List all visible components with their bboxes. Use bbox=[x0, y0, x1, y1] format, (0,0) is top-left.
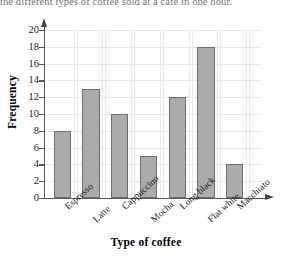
gridline-vertical bbox=[246, 30, 247, 198]
figure-caption: the different types of coffee sold at a … bbox=[0, 0, 292, 8]
gridline-vertical bbox=[160, 30, 161, 198]
y-axis-line bbox=[44, 26, 45, 198]
y-axis-tick bbox=[39, 114, 44, 115]
y-axis-tick bbox=[39, 181, 44, 182]
x-axis-title: Type of coffee bbox=[0, 236, 292, 248]
gridline-vertical bbox=[192, 30, 193, 198]
y-axis-tick-label: 8 bbox=[34, 126, 39, 137]
bar-chart: Frequency 02468101214161820EspressoLatte… bbox=[0, 12, 292, 266]
y-axis-tick-label: 14 bbox=[29, 75, 40, 86]
gridline-vertical bbox=[134, 30, 135, 198]
y-axis-tick-label: 20 bbox=[29, 25, 40, 36]
y-axis-tick-label: 12 bbox=[29, 92, 40, 103]
y-axis-tick-label: 18 bbox=[29, 42, 40, 53]
y-axis-tick bbox=[39, 97, 44, 98]
y-axis-tick-label: 6 bbox=[34, 143, 39, 154]
bar[interactable] bbox=[111, 114, 128, 198]
y-axis-tick bbox=[39, 47, 44, 48]
bar[interactable] bbox=[197, 47, 214, 198]
y-axis-tick-label: 2 bbox=[34, 176, 39, 187]
gridline-vertical bbox=[131, 30, 132, 198]
y-axis-tick-label: 10 bbox=[29, 109, 40, 120]
y-axis-tick-label: 0 bbox=[34, 193, 39, 204]
bar[interactable] bbox=[54, 131, 71, 198]
y-axis-tick bbox=[39, 30, 44, 31]
gridline-vertical bbox=[217, 30, 218, 198]
gridline-vertical bbox=[77, 30, 78, 198]
x-axis-tick-label: Latte bbox=[91, 204, 112, 224]
y-axis-arrow-icon bbox=[41, 18, 47, 27]
gridline-vertical bbox=[189, 30, 190, 198]
gridline-vertical bbox=[220, 30, 221, 198]
y-axis-tick-label: 4 bbox=[34, 159, 39, 170]
gridline-vertical bbox=[74, 30, 75, 198]
gridline-vertical bbox=[105, 30, 106, 198]
gridline-vertical bbox=[102, 30, 103, 198]
x-axis-tick-label: Mocha bbox=[149, 199, 175, 224]
bar[interactable] bbox=[169, 97, 186, 198]
gridline-vertical bbox=[163, 30, 164, 198]
x-axis-arrow-icon bbox=[265, 194, 274, 200]
y-axis-tick-label: 16 bbox=[29, 59, 40, 70]
y-axis-tick bbox=[39, 80, 44, 81]
y-axis-title: Frequency bbox=[6, 66, 18, 138]
y-axis-tick bbox=[39, 198, 44, 199]
y-axis-tick bbox=[39, 148, 44, 149]
y-axis-tick bbox=[39, 131, 44, 132]
gridline-vertical bbox=[249, 30, 250, 198]
y-axis-tick bbox=[39, 64, 44, 65]
y-axis-tick bbox=[39, 164, 44, 165]
